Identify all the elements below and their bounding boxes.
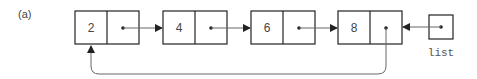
node-value: 8 <box>351 21 358 35</box>
list-label: list <box>428 47 454 59</box>
node-4: 8 <box>338 11 402 44</box>
circular-back-arrow <box>91 28 386 74</box>
node-value: 6 <box>264 21 271 35</box>
node-value: 4 <box>176 21 183 35</box>
figure-label: (a) <box>18 8 31 20</box>
node-value: 2 <box>88 21 95 35</box>
circular-linked-list-diagram: (a) 2 4 6 8 list <box>0 0 477 79</box>
